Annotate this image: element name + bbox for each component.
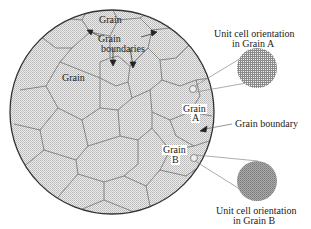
grain-b-marker-icon xyxy=(191,155,198,162)
label-grain-boundaries-2: boundaries xyxy=(101,44,145,54)
label-grain-a-2: A xyxy=(191,113,200,123)
grain-a-marker-icon xyxy=(190,86,197,93)
label-grain-b-2: B xyxy=(171,155,180,165)
label-grain-top: Grain xyxy=(99,15,122,25)
unit-cell-b-lattice-icon xyxy=(237,161,277,201)
label-unit-cell-a-2: in Grain A xyxy=(232,39,274,49)
label-grain-boundary: Grain boundary xyxy=(235,119,298,129)
label-grain-left: Grain xyxy=(62,73,85,83)
unit-cell-a-lattice-icon xyxy=(237,48,277,88)
grain-b-zoom-callout xyxy=(191,155,278,202)
grain-structure-diagram: Grain Grain boundaries Grain Grain A Gra… xyxy=(0,0,311,229)
label-unit-cell-b-2: in Grain B xyxy=(233,216,275,226)
